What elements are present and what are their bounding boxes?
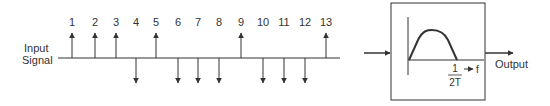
sample-number: 5 — [153, 16, 159, 28]
output-label: Output — [495, 58, 528, 70]
sample-arrows: 12345678910111213 — [69, 16, 332, 83]
sample-number: 2 — [92, 16, 98, 28]
sample-number: 3 — [113, 16, 119, 28]
sample-number: 4 — [133, 16, 139, 28]
cutoff-numerator: 1 — [452, 63, 458, 74]
sampling-filter-diagram: Input Signal 12345678910111213 1 2T f Ou… — [0, 0, 550, 106]
filter-response-curve — [409, 30, 457, 60]
sample-number: 9 — [238, 16, 244, 28]
sample-number: 10 — [257, 16, 269, 28]
filter-box — [391, 3, 485, 100]
sample-number: 13 — [320, 16, 332, 28]
input-label-line2: Signal — [22, 54, 53, 66]
sample-number: 8 — [216, 16, 222, 28]
freq-axis-label: f — [476, 64, 479, 75]
sample-number: 12 — [299, 16, 311, 28]
sample-number: 11 — [278, 16, 289, 28]
sample-number: 7 — [195, 16, 201, 28]
sample-number: 1 — [69, 16, 75, 28]
input-label-line1: Input — [24, 42, 48, 54]
cutoff-denominator: 2T — [449, 77, 461, 88]
sample-number: 6 — [175, 16, 181, 28]
